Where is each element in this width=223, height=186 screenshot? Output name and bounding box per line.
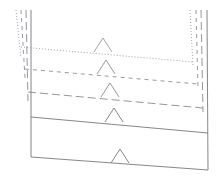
level-line-third-dashdot xyxy=(28,92,203,108)
vessel-second-dashed-group xyxy=(21,10,198,88)
vessel-third-dashdot-left-wall xyxy=(26,10,28,101)
vessel-second-dashed-right-wall xyxy=(196,10,198,88)
level-marker-inner-solid xyxy=(105,108,123,122)
level-line-inner-solid xyxy=(31,117,208,133)
vessel-outer-dotted-left-wall xyxy=(16,10,21,58)
level-marker-base xyxy=(111,149,129,163)
vessel-third-dashdot-right-wall xyxy=(201,10,203,112)
vessel-base-group xyxy=(31,149,208,170)
level-marker-second-dashed xyxy=(97,60,115,74)
vessel-inner-solid-right-wall xyxy=(207,10,208,170)
vessel-outer-dotted-group xyxy=(16,10,193,66)
vessel-diagram-svg xyxy=(0,0,223,186)
level-line-outer-dotted xyxy=(21,47,193,62)
vessel-outer-dotted-right-wall xyxy=(190,10,193,66)
vessel-second-dashed-left-wall xyxy=(21,10,25,78)
diagram-canvas xyxy=(0,0,223,186)
level-marker-third-dashdot xyxy=(101,83,119,97)
vessel-inner-solid-group xyxy=(31,10,208,170)
level-line-second-dashed xyxy=(25,69,198,84)
vessel-base-line xyxy=(31,157,208,170)
level-marker-outer-dotted xyxy=(94,38,112,52)
